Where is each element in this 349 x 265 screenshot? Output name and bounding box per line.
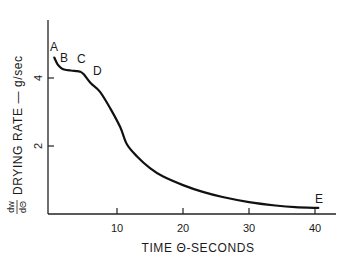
y-tick-label: 4 (32, 75, 44, 81)
x-tick-label: 30 (243, 222, 255, 234)
point-label-e: E (315, 192, 323, 206)
y-tick-label: 2 (32, 143, 44, 149)
y-label-denominator: dΘ (18, 201, 28, 213)
x-tick-label: 20 (177, 222, 189, 234)
drying-rate-chart: 1020304024 ABCDE TIME Θ-SECONDS dw dΘ DR… (0, 0, 349, 265)
y-label-numerator: dw (6, 201, 16, 213)
point-label-b: B (60, 51, 68, 65)
point-label-c: C (77, 52, 86, 66)
y-label-main: DRYING RATE — g/sec (11, 55, 25, 195)
point-label-a: A (50, 40, 58, 54)
point-label-d: D (93, 64, 102, 78)
x-axis-label: TIME Θ-SECONDS (141, 241, 254, 255)
y-axis-label: dw dΘ DRYING RATE — g/sec (6, 55, 28, 214)
curve-point-labels: ABCDE (50, 40, 323, 206)
drying-rate-curve (54, 58, 318, 208)
x-tick-label: 10 (111, 222, 123, 234)
x-tick-label: 40 (309, 222, 321, 234)
